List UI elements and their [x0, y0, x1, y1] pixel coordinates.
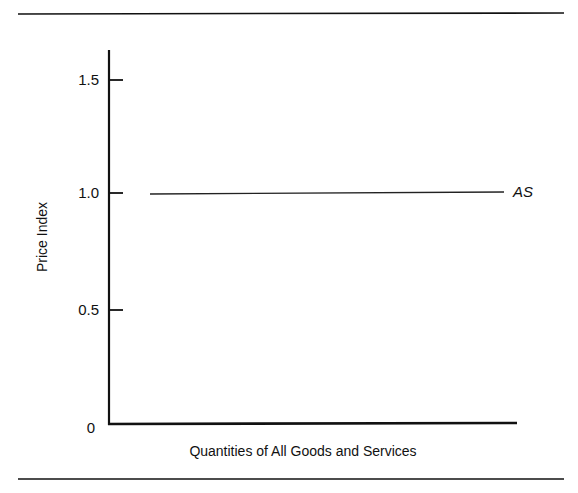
ytick-label-0: 0	[87, 419, 95, 436]
ytick-label-1.0: 1.0	[78, 184, 99, 201]
as-label: AS	[512, 183, 533, 200]
chart: 1.5 1.0 0.5 0 Price Index Quantities of …	[0, 0, 578, 493]
as-curve	[150, 192, 504, 194]
x-axis	[108, 423, 517, 424]
y-axis-label: Price Index	[34, 202, 50, 272]
x-axis-label: Quantities of All Goods and Services	[189, 443, 416, 459]
ytick-label-0.5: 0.5	[78, 301, 99, 318]
ytick-label-1.5: 1.5	[78, 71, 99, 88]
top-rule	[18, 13, 564, 14]
